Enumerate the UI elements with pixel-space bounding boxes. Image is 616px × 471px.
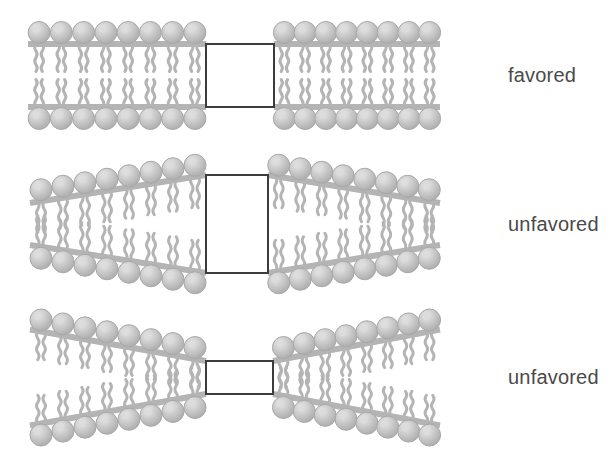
lipid-head-group bbox=[293, 333, 315, 355]
lipid-head-group bbox=[294, 108, 316, 130]
panels-layer bbox=[28, 22, 441, 447]
lipid-tail bbox=[425, 331, 428, 359]
lipid-head-highlight bbox=[336, 169, 343, 176]
lipid-head-group bbox=[162, 333, 184, 355]
lipid-tail bbox=[328, 80, 331, 108]
lipid-head-group bbox=[273, 22, 295, 44]
lipid-head-group bbox=[74, 317, 96, 339]
lipid-head-highlight bbox=[402, 317, 409, 324]
lipid-head-highlight bbox=[32, 111, 39, 118]
lipid-head-group bbox=[117, 108, 139, 130]
lipid-head-highlight bbox=[188, 25, 195, 32]
lipid-tail bbox=[108, 80, 111, 108]
lipid-tail bbox=[175, 44, 178, 72]
lipid-head-highlight bbox=[360, 325, 367, 332]
lipid-tail bbox=[317, 184, 320, 215]
lipid-tail bbox=[349, 80, 352, 108]
lipid-head-highlight bbox=[315, 269, 322, 276]
lipid-head-group bbox=[356, 321, 378, 343]
lipid-tail bbox=[349, 44, 352, 72]
lipid-tail bbox=[390, 80, 393, 108]
lipid-head-highlight bbox=[99, 25, 106, 32]
lipid-tail bbox=[342, 80, 345, 108]
lipid-head-highlight bbox=[166, 336, 173, 343]
lipid-tail bbox=[168, 44, 171, 72]
lipid-head-highlight bbox=[34, 183, 41, 190]
lipid-head-group bbox=[118, 408, 140, 430]
lipid-tail bbox=[383, 387, 386, 415]
lipid-head-group bbox=[184, 154, 206, 176]
lipid-tail bbox=[59, 391, 62, 419]
lipid-tail bbox=[404, 44, 407, 72]
lipid-tail bbox=[81, 223, 84, 254]
lipid-tail bbox=[109, 343, 112, 371]
lipid-head-group bbox=[52, 313, 74, 335]
lipid-tail bbox=[169, 180, 172, 211]
lipid-head-group bbox=[162, 268, 184, 290]
lipid-tail bbox=[63, 80, 66, 108]
lipid-head-highlight bbox=[100, 325, 107, 332]
lipid-tail bbox=[404, 80, 407, 108]
lipid-tail bbox=[81, 339, 84, 367]
lipid-head-group bbox=[162, 158, 184, 180]
lipid-head-group bbox=[332, 165, 354, 187]
lipid-tail bbox=[363, 80, 366, 108]
lipid-tail bbox=[131, 187, 134, 218]
lipid-tail bbox=[125, 187, 128, 218]
lipid-head-group bbox=[356, 412, 378, 434]
lipid-head-highlight bbox=[297, 336, 304, 343]
lipid-head-highlight bbox=[54, 25, 61, 32]
lipid-head-group bbox=[139, 22, 161, 44]
lipid-tail bbox=[65, 391, 68, 419]
lipid-head-highlight bbox=[360, 25, 367, 32]
lipid-tail bbox=[109, 226, 112, 257]
lipid-head-group bbox=[294, 22, 316, 44]
lipid-tail bbox=[124, 80, 127, 108]
lipid-tail bbox=[103, 191, 106, 222]
lipid-head-group bbox=[162, 22, 184, 44]
lipid-head-group bbox=[95, 108, 117, 130]
lipid-head-group bbox=[377, 317, 399, 339]
lipid-tail bbox=[147, 184, 150, 215]
lipid-head-group bbox=[315, 22, 337, 44]
lipid-head-highlight bbox=[379, 258, 386, 265]
lipid-head-group bbox=[118, 261, 140, 283]
lipid-tail bbox=[369, 80, 372, 108]
lipid-head-group bbox=[184, 108, 206, 130]
lipid-tail bbox=[59, 219, 62, 250]
lipid-head-group bbox=[184, 22, 206, 44]
lipid-head-group bbox=[74, 416, 96, 438]
lipid-head-group bbox=[289, 268, 311, 290]
lipid-head-group bbox=[398, 313, 420, 335]
lipid-tail bbox=[367, 191, 370, 222]
lipid-head-group bbox=[375, 254, 397, 276]
lipid-tail bbox=[86, 44, 89, 72]
lipid-head-group bbox=[354, 258, 376, 280]
lipid-tail bbox=[367, 226, 370, 257]
lipid-head-highlight bbox=[423, 428, 430, 435]
labels-layer: favored unfavored unfavored bbox=[508, 64, 599, 388]
lipid-tail bbox=[363, 44, 366, 72]
lipid-tail bbox=[79, 80, 82, 108]
bilayer-right-segment bbox=[272, 309, 440, 446]
lipid-head-highlight bbox=[122, 412, 129, 419]
lipid-tail bbox=[81, 387, 84, 415]
lipid-head-highlight bbox=[188, 276, 195, 283]
lipid-tail bbox=[383, 339, 386, 367]
lipid-head-highlight bbox=[144, 408, 151, 415]
lipid-head-group bbox=[184, 396, 206, 418]
lipid-head-group bbox=[118, 325, 140, 347]
lipid-head-group bbox=[377, 108, 399, 130]
lipid-tail bbox=[286, 44, 289, 72]
lipid-head-highlight bbox=[34, 251, 41, 258]
lipid-tail bbox=[130, 44, 133, 72]
lipid-tail bbox=[103, 343, 106, 371]
lipid-head-highlight bbox=[144, 165, 151, 172]
lipid-head-highlight bbox=[401, 179, 408, 186]
lipid-tail bbox=[146, 80, 149, 108]
lipid-tail bbox=[345, 187, 348, 218]
lipid-tail bbox=[41, 44, 44, 72]
lipid-tail bbox=[384, 80, 387, 108]
lipid-head-group bbox=[268, 272, 290, 294]
lipid-tail bbox=[296, 237, 299, 268]
